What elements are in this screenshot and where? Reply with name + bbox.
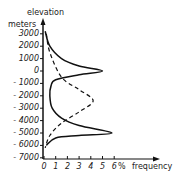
x-axis-arrow-icon [153, 157, 160, 162]
chart-plot [0, 0, 178, 186]
y-axis-arrow-icon [41, 18, 46, 25]
